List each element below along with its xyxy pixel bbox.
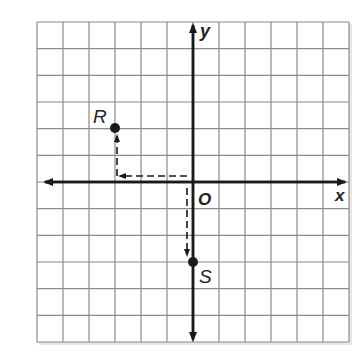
point-r-label: R xyxy=(93,106,107,127)
coordinate-plane: R S O x y xyxy=(0,0,358,362)
x-axis-label: x xyxy=(334,186,346,205)
point-r xyxy=(110,123,120,133)
point-s-label: S xyxy=(199,266,212,287)
origin-label: O xyxy=(198,190,211,209)
point-s xyxy=(188,257,198,267)
y-axis-label: y xyxy=(199,21,211,41)
